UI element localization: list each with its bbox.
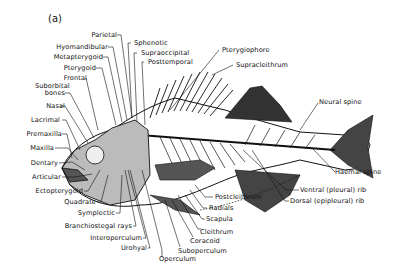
label-supracleithrum: Supracleithrum [236,62,288,69]
label-interoperculum: Interoperculum [90,235,142,242]
label-parietal: Parietal [91,32,117,39]
label-postcleithrum: Postcleithrum [215,194,262,201]
fish-skeleton-figure: (a) Parietal Hyomandibular Metapterygoid… [0,0,405,278]
label-posttemporal: Posttemporal [148,59,193,66]
label-coracoid: Coracoid [190,238,220,245]
label-supraoccipital: Supraoccipital [141,50,189,57]
label-articular: Articular [32,174,61,181]
panel-label: (a) [48,13,62,24]
label-scapula: Scapula [206,216,233,223]
label-suborbital-bones: Suborbital bones [35,83,70,97]
label-bones: bones [35,90,70,97]
label-ectopterygoid: Ectopterygoid [36,188,83,195]
label-ventral-pleural-rib: Ventral (pleural) rib [300,187,366,194]
label-maxilla: Maxilla [30,145,54,152]
label-haemal-spine: Haemal spine [335,169,381,176]
label-branchiostegal-rays: Branchiostegal rays [65,223,132,230]
label-frontal: Frontal [64,75,87,82]
label-cleithrum: Cleithrum [200,229,233,236]
label-dorsal-epipleural-rib: Dorsal (epipleural) rib [290,198,364,205]
label-pterygoid: Pterygoid [64,65,96,72]
label-suboperculum: Suboperculum [178,248,227,255]
label-metapterygoid: Metapterygoid [54,54,103,61]
label-hyomandibular: Hyomandibular [56,44,108,51]
label-sphenotic: Sphenotic [134,40,168,47]
label-symplectic: Symplectic [78,210,115,217]
label-urohyal: Urohyal [121,245,147,252]
label-operculum: Operculum [159,256,196,263]
label-pterygiophore: Pterygiophore [222,47,270,54]
label-premaxilla: Premaxilla [27,131,62,138]
label-lacrimal: Lacrimal [31,117,60,124]
label-radials: Radials [209,205,234,212]
label-dentary: Dentary [31,160,58,167]
label-quadrate: Quadrate [64,199,96,206]
label-nasal: Nasal [46,103,65,110]
label-neural-spine: Neural spine [319,99,362,106]
